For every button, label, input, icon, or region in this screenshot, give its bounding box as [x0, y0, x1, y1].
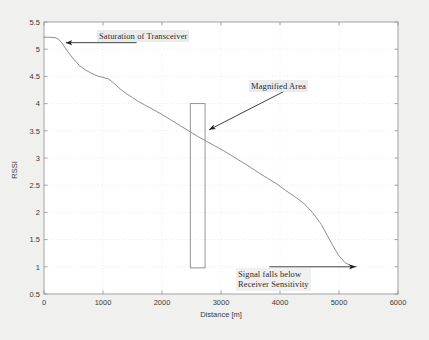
svg-text:3.5: 3.5 — [30, 127, 40, 136]
svg-text:3: 3 — [36, 154, 40, 163]
rssi-distance-figure: 0.511.522.533.544.555.5 0100020003000400… — [0, 0, 429, 340]
svg-text:0.5: 0.5 — [30, 290, 40, 299]
svg-text:1: 1 — [36, 263, 40, 272]
svg-text:2000: 2000 — [154, 298, 171, 307]
svg-text:2.5: 2.5 — [30, 181, 40, 190]
sensitivity-annotation-label: Signal falls below Receiver Sensitivity — [236, 268, 311, 291]
svg-text:2: 2 — [36, 208, 40, 217]
magnified-area-annotation-label: Magnified Area — [249, 80, 308, 92]
svg-text:4: 4 — [36, 99, 40, 108]
svg-text:1.5: 1.5 — [30, 235, 40, 244]
svg-text:3000: 3000 — [213, 298, 230, 307]
svg-text:4000: 4000 — [272, 298, 289, 307]
saturation-annotation-label: Saturation of Transceiver — [97, 30, 189, 42]
svg-text:4.5: 4.5 — [30, 72, 40, 81]
sensitivity-annotation-line-1: Signal falls below — [238, 269, 309, 279]
svg-text:5000: 5000 — [331, 298, 348, 307]
sensitivity-annotation-line-2: Receiver Sensitivity — [238, 279, 309, 289]
svg-text:5: 5 — [36, 45, 40, 54]
svg-text:5.5: 5.5 — [30, 18, 40, 27]
svg-text:1000: 1000 — [95, 298, 112, 307]
y-axis-title: RSSI — [10, 161, 19, 179]
x-axis-title: Distance [m] — [200, 310, 242, 319]
svg-text:0: 0 — [42, 298, 46, 307]
svg-text:6000: 6000 — [390, 298, 407, 307]
chart-canvas: 0.511.522.533.544.555.5 0100020003000400… — [0, 0, 429, 340]
